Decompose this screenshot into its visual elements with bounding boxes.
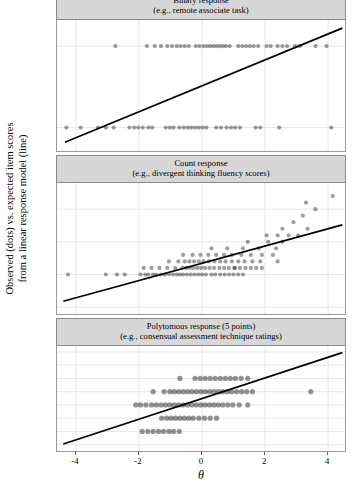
y-axis-label: Observed (dots) vs. expected item scores… <box>4 89 29 329</box>
plot-area-binary: 01 <box>56 20 346 152</box>
panel-subtitle: (e.g., consensual assessment technique r… <box>57 331 345 341</box>
panel-title-strip: Binary response (e.g., remote associate … <box>56 0 346 20</box>
y-tick-mark <box>56 378 57 379</box>
figure-container: Observed (dots) vs. expected item scores… <box>0 0 356 487</box>
x-tick-mark <box>138 452 139 455</box>
x-tick-mark <box>264 452 265 455</box>
y-tick-mark <box>56 274 57 275</box>
y-tick-mark <box>56 351 57 352</box>
panel-title-strip: Count response (e.g., divergent thinking… <box>56 155 346 183</box>
x-axis-label: θ <box>56 468 346 483</box>
x-tick-label: 2 <box>262 456 266 466</box>
panel-title-strip: Polytomous response (5 points) (e.g., co… <box>56 318 346 346</box>
y-tick-mark <box>56 209 57 210</box>
x-tick-label: -2 <box>134 456 141 466</box>
plot-area-count: -50510 <box>56 183 346 315</box>
y-tick-mark <box>56 418 57 419</box>
x-tick-label: 0 <box>199 456 203 466</box>
y-tick-mark <box>56 365 57 366</box>
panel-title: Count response <box>57 158 345 168</box>
y-tick-mark <box>56 391 57 392</box>
y-tick-mark <box>56 46 57 47</box>
x-tick-label: 4 <box>325 456 329 466</box>
x-tick-mark <box>327 452 328 455</box>
x-tick-mark <box>75 452 76 455</box>
y-tick-mark <box>56 431 57 432</box>
panel-subtitle: (e.g., divergent thinking fluency scores… <box>57 168 345 178</box>
panel-binary-response: Binary response (e.g., remote associate … <box>56 0 346 152</box>
y-tick-mark <box>56 307 57 308</box>
panel-subtitle: (e.g., remote associate task) <box>57 5 345 15</box>
panel-polytomous-response: Polytomous response (5 points) (e.g., co… <box>56 318 346 452</box>
panel-title: Polytomous response (5 points) <box>57 321 345 331</box>
plot-area-polytomous: 01234567 <box>56 346 346 452</box>
panel-count-response: Count response (e.g., divergent thinking… <box>56 155 346 315</box>
x-tick-label: -4 <box>71 456 78 466</box>
y-tick-mark <box>56 404 57 405</box>
x-tick-mark <box>201 452 202 455</box>
y-tick-mark <box>56 241 57 242</box>
y-tick-mark <box>56 127 57 128</box>
y-tick-mark <box>56 444 57 445</box>
